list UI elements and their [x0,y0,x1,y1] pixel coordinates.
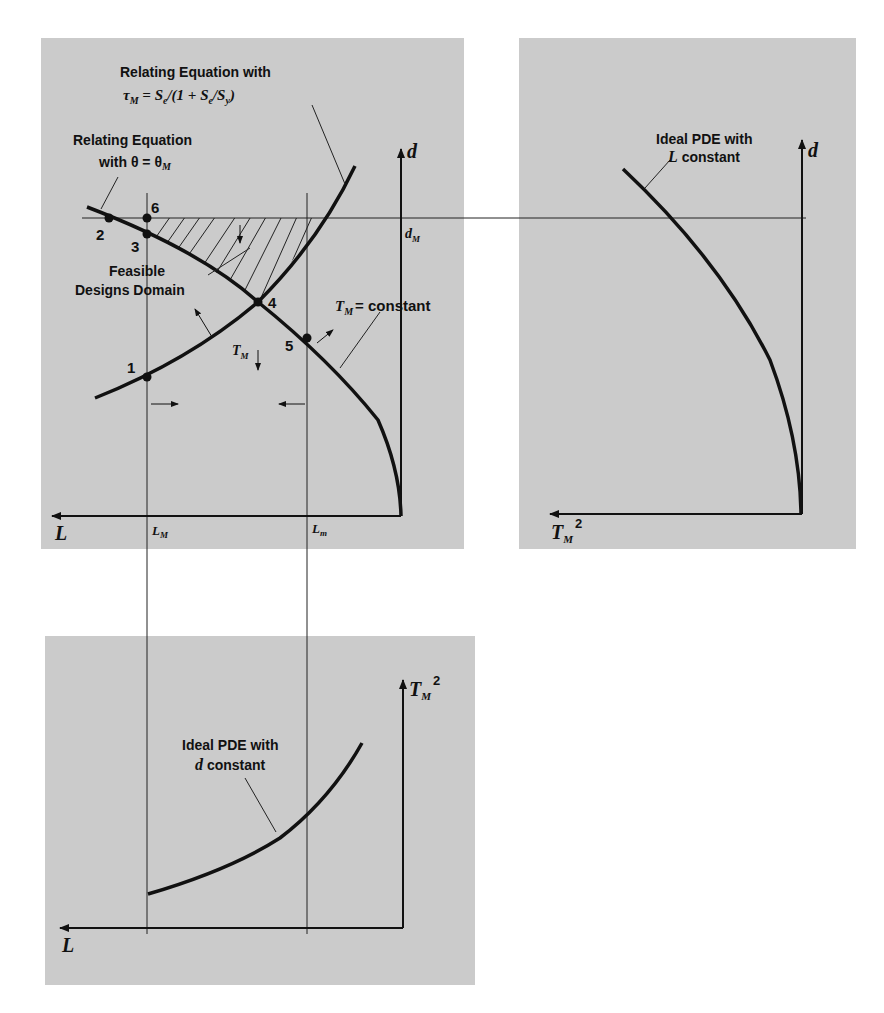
point-4 [254,298,263,307]
dM-label: dM [405,226,421,244]
diagram-canvas: 1 2 3 4 5 6 Relating Equation with τM = … [0,0,884,1013]
tm2-vs-l-plot: Ideal PDE with d constant TM2 L [60,673,440,956]
point-3 [143,230,152,239]
tau-label-line2: τM = Se/(1 + Se/Sy) [123,87,235,106]
ideal-pde-L-constant-curve [623,169,801,514]
point-2 [105,214,114,223]
theta-label-line2: with θ = θM [98,154,172,172]
point-label-4: 4 [268,294,277,311]
LM-label: LM [151,523,169,540]
tm-arrow-label: TM [232,343,250,361]
bottom-label-line2: d constant [195,756,266,773]
point-label-1: 1 [127,359,135,376]
right-label-line1: Ideal PDE with [656,131,752,147]
point-label-5: 5 [285,337,293,354]
point-label-2: 2 [96,226,104,243]
L-axis-label: L [54,522,67,544]
right-label-line2: L constant [667,148,740,165]
point-label-6: 6 [151,199,159,216]
point-label-3: 3 [131,238,139,255]
bottom-label-line1: Ideal PDE with [182,737,278,753]
point-1 [143,373,152,382]
tm2-axis-right-label: TM2 [551,516,582,545]
Lm-label: Lm [311,521,327,538]
tm-constant-label: TM= constant [335,297,431,317]
d-axis-right-label: d [808,139,819,161]
point-5 [303,334,312,343]
L-axis-bottom-label: L [61,934,74,956]
d-axis-label: d [407,140,418,162]
feasible-label-line1: Feasible [109,263,165,279]
d-vs-tm2-plot: Ideal PDE with L constant d TM2 [550,131,819,545]
tau-label-line1: Relating Equation with [120,64,271,80]
feasible-label-line2: Designs Domain [75,282,185,298]
theta-label-line1: Relating Equation [73,132,192,148]
tm2-axis-bottom-label: TM2 [409,673,440,702]
design-space-plot: 1 2 3 4 5 6 Relating Equation with τM = … [52,64,806,934]
